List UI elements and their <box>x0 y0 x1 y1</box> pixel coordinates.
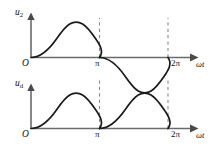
u2-positive-halfcycle <box>31 22 101 57</box>
bottom-y-axis-label-sub: d <box>20 82 23 89</box>
bottom-tick-label-2pi: 2π <box>171 130 180 139</box>
top-y-axis-arrowhead <box>27 13 34 21</box>
top-tick-label-2pi: 2π <box>171 59 180 68</box>
bottom-origin-label: O <box>22 130 29 140</box>
top-x-axis-label: ωt <box>196 60 204 69</box>
bottom-x-axis-label: ωt <box>196 131 204 140</box>
top-plot-group <box>27 13 198 93</box>
u2-negative-halfcycle <box>100 58 170 93</box>
top-tick-label-pi: π <box>95 59 100 68</box>
waveform-figure: u2 O π 2π ωt ud O π 2π ωt <box>0 0 224 155</box>
waveform-canvas <box>0 0 224 155</box>
top-origin-label: O <box>22 59 29 69</box>
bottom-plot-group <box>27 80 198 132</box>
ud-first-hump <box>31 93 101 128</box>
ud-second-hump <box>100 93 170 128</box>
bottom-y-axis-arrowhead <box>27 84 34 92</box>
bottom-tick-label-pi: π <box>95 130 100 139</box>
top-y-axis-label: u2 <box>15 8 23 18</box>
top-y-axis-label-sub: 2 <box>20 11 23 18</box>
bottom-y-axis-label: ud <box>15 79 23 89</box>
